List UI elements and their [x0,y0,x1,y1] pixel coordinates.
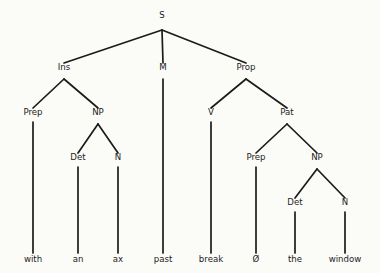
tree-node-np1: NP [92,107,104,117]
tree-leaf-past: past [154,254,173,264]
tree-node-m: M [159,62,166,72]
edge-s-m [162,30,163,63]
tree-node-pat: Pat [280,107,294,117]
tree-node-s: S [159,10,164,20]
tree-leaf-ax: ax [113,254,123,264]
tree-node-np2: NP [311,152,323,162]
tree-leaf-an: an [73,254,84,264]
tree-node-det2: Det [287,197,303,207]
tree-node-v: V [208,107,214,117]
tree-leaf-with: with [24,254,42,264]
tree-node-n2: N [342,197,348,207]
tree-node-prep2: Prep [246,152,265,162]
tree-leaf-null: Ø [253,254,260,264]
tree-leaf-the: the [288,254,302,264]
tree-leaf-window: window [329,254,362,264]
tree-leaf-break: break [199,254,223,264]
tree-node-n1: N [115,152,121,162]
tree-node-det1: Det [70,152,86,162]
tree-node-ins: Ins [58,62,71,72]
tree-node-prep1: Prep [23,107,42,117]
syntax-tree-diagram: SInsMPropPrepNPVPatDetNPrepNPDetN withan… [0,0,380,273]
tree-node-prop: Prop [236,62,255,72]
